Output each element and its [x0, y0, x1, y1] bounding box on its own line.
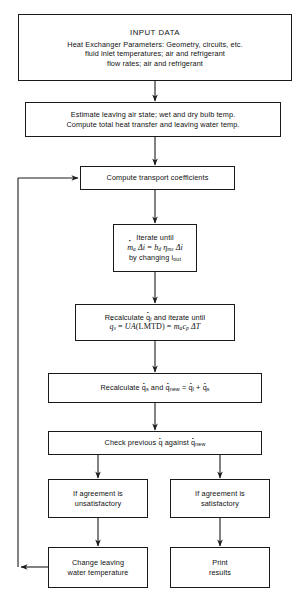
- qnew-subscript: new: [170, 386, 180, 392]
- mdot-subscript: a: [133, 246, 136, 252]
- equals-sign-3: =: [182, 383, 186, 392]
- qnew-symbol-b: q: [191, 438, 195, 447]
- node-if-agreement-unsatisfactory: If agreement is unsatisfactory: [48, 479, 148, 518]
- node-estimate-leaving-air-state: Estimate leaving air state; wet and dry …: [25, 102, 281, 137]
- node-iterate-until: Iterate until ma Δi = bd ηms Δi by chang…: [113, 224, 197, 272]
- input-data-heading: INPUT DATA: [130, 27, 180, 40]
- recalc-qs-line: Recalculate qs and qnew = ql + qs: [100, 383, 209, 392]
- recalc-ql-equation: qs = UA(LMTD) = macp ΔT: [110, 322, 201, 332]
- delta-t-symbol: ΔT: [191, 322, 200, 331]
- recalc-qs-prefix: Recalculate: [100, 383, 141, 392]
- node-input-data: INPUT DATA Heat Exchanger Parameters: Ge…: [18, 14, 292, 81]
- q-symbol: q: [158, 438, 162, 447]
- qnew-subscript-b: new: [195, 441, 205, 447]
- lmtd-label: (LMTD): [136, 322, 165, 331]
- cp-subscript: p: [186, 325, 189, 331]
- recalc-qs-mid: and: [149, 383, 166, 392]
- unsatisfactory-line-1: If agreement is: [73, 489, 123, 498]
- change-water-line-2: water temperature: [68, 568, 129, 577]
- check-line: Check previous q against qnew: [105, 438, 206, 447]
- node-change-leaving-water-temperature: Change leaving water temperature: [48, 547, 148, 588]
- iterate-equation: ma Δi = bd ηms Δi: [127, 243, 183, 253]
- equals-sign-1: =: [118, 322, 123, 331]
- input-data-line-1: Heat Exchanger Parameters: Geometry, cir…: [67, 40, 242, 49]
- qs-symbol: q: [110, 322, 114, 332]
- equals-sign: =: [147, 243, 152, 252]
- check-prefix: Check previous: [105, 438, 159, 447]
- plus-sign: +: [196, 383, 200, 392]
- iterate-line-3-text: by changing: [129, 253, 172, 262]
- qs-symbol-b: q: [142, 383, 146, 392]
- ua-symbol: UA: [125, 322, 136, 331]
- b-subscript: d: [158, 246, 161, 252]
- node-recalculate-qs-qnew: Recalculate qs and qnew = ql + qs: [48, 373, 262, 403]
- delta-i-right: Δi: [176, 243, 183, 252]
- print-results-line-2: results: [209, 568, 231, 577]
- recalc-ql-line-1: Recalculate ql and iterate until: [105, 313, 206, 322]
- delta-i-left: Δi: [138, 243, 145, 252]
- unsatisfactory-line-2: unsatisfactory: [75, 499, 121, 508]
- print-results-line-1: Print: [212, 558, 228, 567]
- estimate-line-1: Estimate leaving air state; wet and dry …: [71, 110, 235, 119]
- mdot-symbol-2: m: [174, 322, 180, 332]
- equals-sign-2: =: [167, 322, 172, 331]
- qs-subscript-c: s: [207, 386, 210, 392]
- iterate-line-1: Iterate until: [136, 233, 173, 242]
- change-water-line-1: Change leaving: [72, 558, 124, 567]
- node-check-previous-q: Check previous q against qnew: [48, 431, 262, 455]
- estimate-line-2: Compute total heat transfer and leaving …: [66, 120, 239, 129]
- ql-symbol: q: [146, 313, 150, 322]
- satisfactory-line-2: satisfactory: [201, 499, 239, 508]
- node-recalculate-ql: Recalculate ql and iterate until qs = UA…: [75, 304, 235, 341]
- node-compute-transport-coefficients: Compute transport coefficients: [80, 166, 235, 190]
- i-out-subscript: out: [173, 256, 181, 262]
- ql-symbol-b: q: [188, 383, 192, 392]
- iterate-line-3: by changing iout: [129, 253, 181, 262]
- eta-subscript: ms: [167, 246, 173, 252]
- qs-symbol-c: q: [203, 383, 207, 392]
- flowchart-diagram: INPUT DATA Heat Exchanger Parameters: Ge…: [0, 0, 299, 596]
- mdot-symbol: m: [127, 243, 133, 253]
- node-print-results: Print results: [170, 547, 270, 588]
- input-data-line-3: flow rates; air and refrigerant: [107, 59, 203, 68]
- transport-line-1: Compute transport coefficients: [107, 173, 209, 182]
- qnew-symbol: q: [165, 383, 169, 392]
- input-data-line-2: fluid inlet temperatures; air and refrig…: [85, 49, 225, 58]
- satisfactory-line-1: If agreement is: [195, 489, 245, 498]
- check-mid: against: [163, 438, 191, 447]
- node-if-agreement-satisfactory: If agreement is satisfactory: [170, 479, 270, 518]
